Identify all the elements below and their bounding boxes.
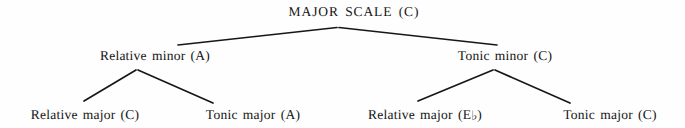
- flat-accidental-icon: ♭: [471, 109, 477, 124]
- edge-root-to-relative-minor: [178, 28, 337, 46]
- tree-node-tonic-major-a: Tonic major (A): [206, 108, 300, 122]
- edge-relative-minor-to-tonic-major-a: [138, 70, 213, 103]
- node-label-text: Relative major (E: [368, 107, 471, 122]
- tree-node-tonic-major-c: Tonic major (C): [563, 108, 657, 122]
- tree-node-major-scale: MAJOR SCALE (C): [289, 5, 420, 19]
- edge-tonic-minor-to-relative-major-eb: [418, 70, 493, 101]
- tree-node-relative-minor: Relative minor (A): [100, 49, 210, 63]
- scale-relations-tree-figure: MAJOR SCALE (C) Relative minor (A) Tonic…: [0, 0, 685, 128]
- edge-tonic-minor-to-tonic-major-c: [495, 70, 570, 103]
- node-label-suffix: ): [477, 107, 482, 122]
- tree-node-tonic-minor: Tonic minor (C): [458, 49, 552, 63]
- edge-root-to-tonic-minor: [339, 28, 497, 46]
- edge-relative-minor-to-relative-major-c: [84, 70, 136, 101]
- tree-node-relative-major-eb: Relative major (E♭): [368, 108, 482, 122]
- tree-node-relative-major-c: Relative major (C): [31, 108, 140, 122]
